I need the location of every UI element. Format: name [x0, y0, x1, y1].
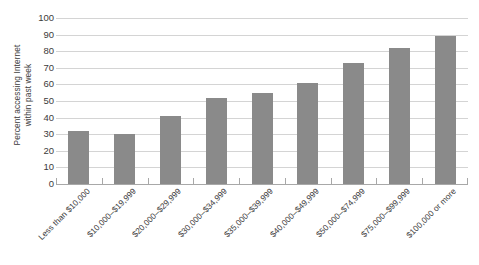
- bar: [435, 36, 456, 184]
- x-axis-tick: [331, 178, 332, 185]
- y-tick-label-30: 30: [43, 129, 54, 139]
- y-tick-label-10: 10: [43, 162, 54, 172]
- bar: [114, 134, 135, 184]
- plot-area: [56, 18, 468, 184]
- x-axis-tick: [422, 178, 423, 185]
- y-tick-label-0: 0: [49, 179, 54, 189]
- y-tick-label-80: 80: [43, 46, 54, 56]
- bar-chart-figure: Percent accessing Internet within past w…: [0, 0, 479, 265]
- x-axis-tick: [56, 178, 57, 185]
- y-tick-label-40: 40: [43, 113, 54, 123]
- x-axis-tick: [102, 178, 103, 185]
- y-tick-label-100: 100: [38, 13, 54, 23]
- y-axis-tick-labels: 1009080706050403020100: [26, 18, 54, 184]
- x-axis-tick: [148, 178, 149, 185]
- bars-layer: [56, 18, 468, 184]
- y-tick-label-50: 50: [43, 96, 54, 106]
- bar: [389, 48, 410, 184]
- bar: [343, 63, 364, 184]
- x-axis-tick-labels: Less than $10,000$10,000–$19,999$20,000–…: [56, 186, 479, 265]
- x-axis-ticks: [56, 178, 468, 185]
- x-axis-tick: [193, 178, 194, 185]
- bar: [252, 93, 273, 184]
- x-axis-tick: [467, 178, 468, 185]
- y-tick-label-90: 90: [43, 30, 54, 40]
- x-axis-tick: [285, 178, 286, 185]
- x-axis-tick: [376, 178, 377, 185]
- bar: [160, 116, 181, 184]
- bar: [206, 98, 227, 184]
- x-axis-tick: [239, 178, 240, 185]
- y-tick-label-60: 60: [43, 79, 54, 89]
- x-tick-label: Less than $10,000: [36, 186, 92, 242]
- x-tick-label: $100,000 or more: [404, 186, 458, 240]
- bar: [68, 131, 89, 184]
- y-axis-title-line-1: Percent accessing Internet: [12, 45, 23, 146]
- bar: [297, 83, 318, 184]
- y-tick-label-20: 20: [43, 146, 54, 156]
- y-tick-label-70: 70: [43, 63, 54, 73]
